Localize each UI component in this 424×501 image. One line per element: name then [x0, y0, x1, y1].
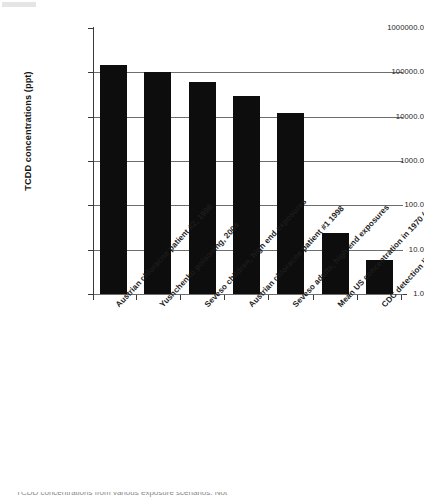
- y-axis-tick: [88, 117, 94, 118]
- bar: [100, 65, 127, 295]
- x-axis-tick: [401, 295, 402, 300]
- x-axis-tick: [268, 295, 269, 300]
- y-axis-tick: [88, 250, 94, 251]
- y-axis-tick: [88, 205, 94, 206]
- y-axis-tick-label: 100000.0: [342, 67, 424, 76]
- y-axis-title: TCDD concentrations (ppt): [23, 51, 33, 211]
- figure-caption-text: TCDD concentrations from various exposur…: [16, 492, 227, 497]
- x-axis-tick: [180, 295, 181, 300]
- scan-artifact: [2, 2, 36, 7]
- y-axis-tick-label: 1000.0: [342, 156, 424, 165]
- y-axis-tick-label: 10000.0: [342, 112, 424, 121]
- y-axis-tick: [88, 28, 94, 29]
- x-axis-tick: [136, 295, 137, 300]
- y-axis-tick-label: 1000000.0: [342, 23, 424, 32]
- y-axis-tick: [88, 72, 94, 73]
- x-axis-tick: [313, 295, 314, 300]
- figure-caption: TCDD concentrations from various exposur…: [0, 492, 424, 501]
- x-axis-tick: [224, 295, 225, 300]
- x-axis-tick: [357, 295, 358, 300]
- tcdd-bar-chart-figure: TCDD concentrations (ppt) 1000000.010000…: [0, 0, 424, 501]
- y-axis-tick: [88, 161, 94, 162]
- x-axis-tick: [93, 295, 94, 300]
